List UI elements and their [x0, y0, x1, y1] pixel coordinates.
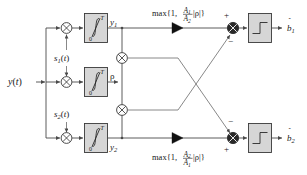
gain-triangle-top: [172, 23, 183, 34]
svg-text:A2: A2: [183, 14, 192, 24]
multiplier-cross-lower: [117, 105, 128, 116]
gain-triangle-bottom: [172, 133, 183, 144]
svg-text:b1: b1: [287, 23, 295, 34]
label-y2: y2: [109, 142, 118, 153]
cross-path-upper-to-bottom-sum: [128, 58, 231, 133]
label-int2-lower-limit: 0: [89, 146, 92, 152]
label-rho: ρ: [110, 71, 115, 81]
svg-text:|ρ|}: |ρ|}: [193, 8, 205, 18]
label-intrho-lower-limit: 0: [89, 90, 92, 96]
label-decision-2: b2 ˆ: [287, 126, 296, 144]
sign-block-2: [249, 124, 272, 153]
label-y1: y1: [109, 17, 117, 28]
label-gain-bottom: max{1, A2 A1 |ρ|}: [152, 150, 205, 168]
label-decision-1: b1 ˆ: [287, 16, 295, 34]
summing-junction-top: [227, 22, 238, 33]
rho-bus: [121, 27, 124, 140]
sign-top-minus: −: [228, 36, 233, 46]
cross-path-lower-to-top-sum: [128, 35, 231, 110]
label-int1-lower-limit: 0: [89, 36, 92, 42]
integrator-block-1: [85, 14, 108, 43]
summing-junction-bottom: [227, 132, 238, 143]
diagram-canvas: y(t) s1(t) s2(t) T 0 T 0 T 0 y1 ρ y2 max…: [0, 0, 307, 175]
label-input-yt: y(t): [7, 76, 22, 88]
label-signature-1: s1(t): [54, 53, 69, 64]
sign-bottom-minus: −: [228, 116, 233, 126]
input-bus: [36, 28, 60, 138]
multiplier-cross-upper: [117, 53, 128, 64]
label-gain-top: max{1, A1 A2 |ρ|}: [152, 6, 205, 24]
sign-top-plus: +: [224, 10, 229, 20]
svg-text:max{1,: max{1,: [152, 152, 177, 162]
multiplier-bottom: [61, 122, 72, 143]
sign-bottom-plus: +: [224, 144, 229, 154]
svg-text:b2: b2: [287, 133, 296, 144]
block-diagram-figure: y(t) s1(t) s2(t) T 0 T 0 T 0 y1 ρ y2 max…: [0, 0, 307, 175]
integrator-block-rho: [85, 68, 108, 97]
svg-text:|ρ|}: |ρ|}: [193, 152, 205, 162]
multiplier-middle: [61, 66, 72, 87]
svg-text:A1: A1: [183, 158, 192, 168]
sign-block-1: [249, 14, 272, 43]
svg-text:max{1,: max{1,: [152, 8, 177, 18]
multiplier-top: [61, 23, 72, 50]
integrator-block-2: [85, 124, 108, 153]
label-signature-2: s2(t): [54, 109, 69, 120]
